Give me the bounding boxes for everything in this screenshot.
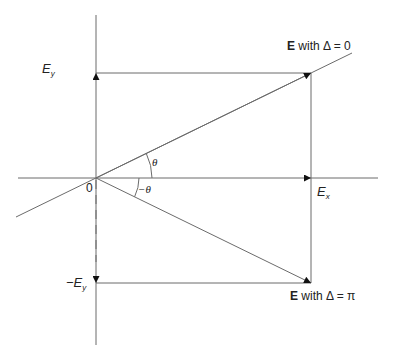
e-deltapi-label: E with Δ = π [290,290,355,302]
ey-label: Ey [42,62,55,78]
e-delta0-vector [96,73,311,178]
ex-label: Ex [317,185,330,201]
origin-label: 0 [86,182,93,194]
e-delta0-label: E with Δ = 0 [287,40,351,52]
neg-theta-label: −θ [138,184,151,195]
e-deltapi-vector [96,178,311,283]
neg-ey-label: −Ey [66,276,86,292]
polarization-diagram [0,0,394,359]
theta-label: θ [152,157,157,168]
